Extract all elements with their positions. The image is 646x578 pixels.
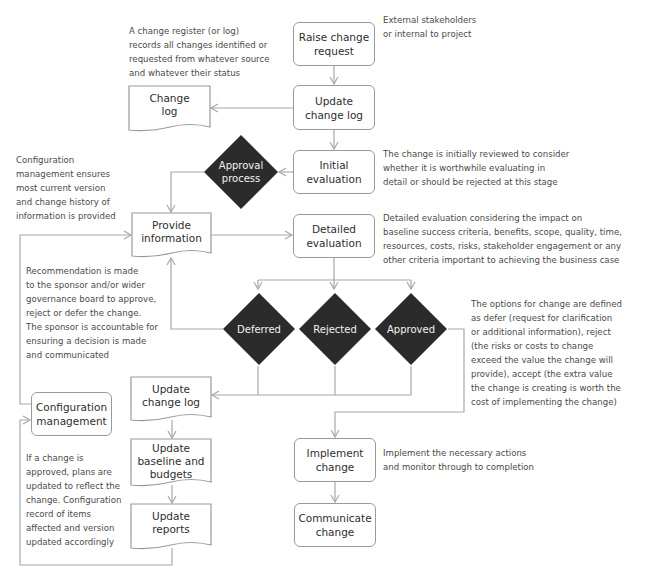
- implement-change-box: Implement change: [294, 438, 376, 482]
- implement-note: Implement the necessary actions and moni…: [383, 446, 563, 474]
- rejected-decision: Rejected: [299, 320, 371, 338]
- initial-review-note: The change is initially reviewed to cons…: [383, 147, 623, 189]
- change-register-note: A change register (or log) records all c…: [129, 24, 289, 80]
- detailed-evaluation-note: Detailed evaluation considering the impa…: [383, 211, 645, 267]
- stakeholders-note: External stakeholders or internal to pro…: [383, 13, 523, 41]
- update-change-log-document: Update change log: [131, 377, 211, 420]
- deferred-decision: Deferred: [223, 320, 295, 338]
- update-reports-document: Update reports: [131, 504, 211, 548]
- provide-information-label: Provide information: [141, 219, 202, 245]
- update-baseline-label: Update baseline and budgets: [137, 442, 204, 481]
- raise-change-request-box: Raise change request: [293, 22, 375, 66]
- update-change-log-label: Update change log: [142, 383, 200, 409]
- communicate-change-box: Communicate change: [294, 503, 376, 547]
- approval-process-decision: Approval process: [204, 155, 278, 189]
- configuration-management-box: Configuration management: [31, 392, 112, 436]
- update-change-log-box: Update change log: [293, 85, 375, 130]
- options-note: The options for change are defined as de…: [471, 297, 646, 409]
- change-log-label: Change log: [149, 92, 189, 118]
- initial-evaluation-box: Initial evaluation: [293, 150, 375, 194]
- recommendation-note: Recommendation is made to the sponsor an…: [26, 264, 176, 362]
- change-log-document: Change log: [129, 86, 210, 130]
- provide-information-document: Provide information: [132, 213, 211, 256]
- detailed-evaluation-box: Detailed evaluation: [293, 214, 375, 258]
- update-baseline-document: Update baseline and budgets: [131, 439, 211, 485]
- configuration-note: Configuration management ensures most cu…: [16, 153, 136, 223]
- approved-decision: Approved: [375, 320, 447, 338]
- update-reports-label: Update reports: [152, 510, 190, 536]
- approved-plans-note: If a change is approved, plans are updat…: [26, 451, 136, 549]
